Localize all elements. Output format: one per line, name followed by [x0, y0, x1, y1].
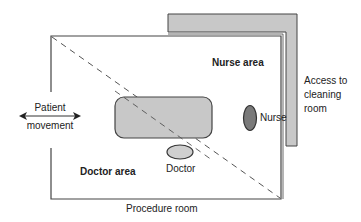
doctor-label: Doctor: [166, 163, 195, 175]
doctor-area-label: Doctor area: [80, 166, 136, 178]
patient-movement-label-line1: Patient: [30, 102, 70, 114]
nurse-area-label: Nurse area: [212, 57, 264, 69]
doctor-marker: [167, 145, 193, 159]
nurse-label: Nurse: [260, 112, 287, 124]
patient-table: [115, 97, 212, 138]
cleaning-access-label-line3: room: [304, 103, 327, 115]
procedure-room-label: Procedure room: [126, 203, 198, 215]
nurse-marker: [244, 106, 257, 131]
patient-movement-label-line2: movement: [22, 120, 78, 132]
cleaning-access-label-line2: cleaning: [304, 89, 341, 101]
procedure-room-diagram: Nurse area Doctor area Nurse Doctor Proc…: [0, 0, 361, 222]
cleaning-access-label-line1: Access to: [304, 75, 347, 87]
